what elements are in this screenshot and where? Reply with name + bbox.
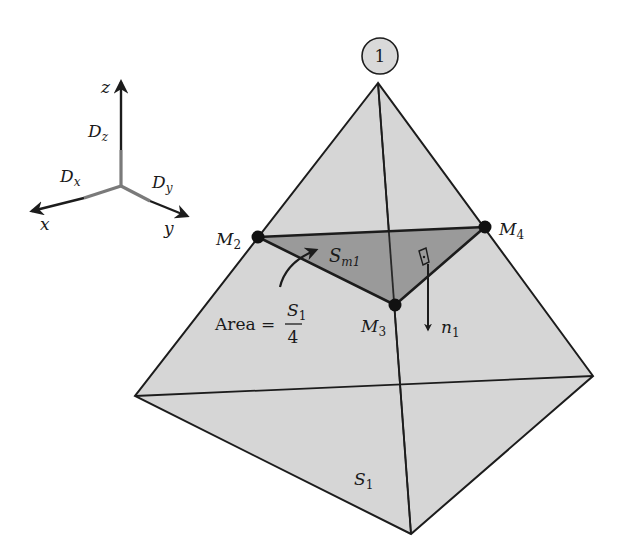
label-m4: M4 [498,219,524,242]
coordinate-axes: z x y Dz Dx Dy [32,77,187,238]
point-m3 [389,299,402,312]
label-dx: Dx [59,166,81,189]
label-dy: Dy [151,172,173,195]
axis-label-z: z [100,77,111,97]
x-axis [84,186,121,198]
axis-label-y: y [163,218,174,238]
y-axis [121,186,150,201]
tetrahedron-figure: 1 M2 M4 M3 Sm1 n1 Area = S1 4 S1 [0,0,620,559]
axis-label-x: x [40,214,50,234]
label-dz: Dz [87,121,109,144]
node-marker: 1 [362,38,398,74]
area-denominator: 4 [288,327,299,347]
label-m2: M2 [215,229,241,252]
point-m2 [252,231,265,244]
point-m4 [479,221,492,234]
node-label: 1 [375,46,386,66]
area-prefix: Area = [214,314,275,334]
tetrahedron-body [135,83,593,534]
